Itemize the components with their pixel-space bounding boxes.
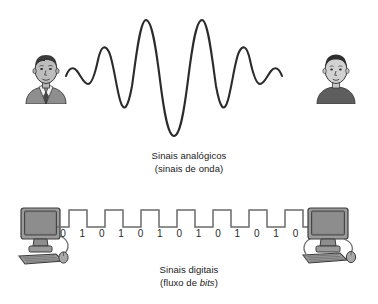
bit-6: 0: [174, 228, 184, 240]
bit-7: 1: [194, 228, 204, 240]
bit-10: 0: [252, 228, 262, 240]
analog-caption-line1: Sinais analógicos: [152, 150, 227, 161]
bit-9: 1: [232, 228, 242, 240]
digital-caption: Sinais digitais (fluxo de bits): [0, 264, 378, 289]
desktop-computer-icon: [294, 206, 364, 266]
bit-5: 1: [155, 228, 165, 240]
digital-caption-emphasis: bits: [200, 277, 215, 288]
analog-sine-wave: [60, 8, 310, 138]
bit-8: 0: [213, 228, 223, 240]
digital-caption-line1: Sinais digitais: [160, 264, 219, 275]
bit-2: 0: [97, 228, 107, 240]
digital-caption-suffix: ): [215, 277, 218, 288]
computer-right: [294, 206, 364, 270]
person-plain-icon: [312, 52, 360, 104]
analog-caption-line2: (sinais de onda): [0, 163, 378, 176]
avatar-person-plain: [312, 52, 360, 108]
digital-caption-prefix: (fluxo de: [160, 277, 200, 288]
bit-11: 1: [271, 228, 281, 240]
bit-4: 0: [136, 228, 146, 240]
digital-caption-line2: (fluxo de bits): [0, 277, 378, 290]
bit-1: 1: [77, 228, 87, 240]
analog-caption: Sinais analógicos (sinais de onda): [0, 150, 378, 175]
figure-analog-vs-digital-signals: Sinais analógicos (sinais de onda): [0, 0, 378, 304]
bit-3: 1: [116, 228, 126, 240]
bit-stream: 0 1 0 1 0 1 0 1 0 1 0 1 0 1: [58, 228, 320, 240]
bit-0: 0: [58, 228, 68, 240]
